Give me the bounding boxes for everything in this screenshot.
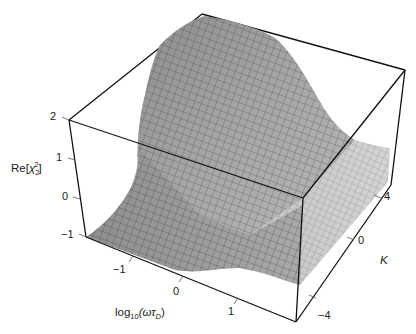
z-tick-label: 0: [62, 191, 68, 202]
z-axis-title: Re[χ22]: [11, 163, 42, 175]
y-tick-label: 4: [384, 191, 390, 202]
z-title-suffix: ]: [39, 162, 42, 174]
x-tick-label: 1: [228, 306, 234, 317]
x-title-sub: 10: [130, 312, 138, 321]
x-tick-label: −1: [113, 264, 126, 275]
z-tick-label: 1: [56, 152, 62, 163]
x-tick-label: 0: [173, 286, 179, 297]
y-tick-label: −4: [318, 310, 331, 321]
x-title-omega-tau: (ωτ: [139, 306, 156, 318]
x-title-close: ): [161, 306, 165, 318]
x-title-log: log: [115, 306, 130, 318]
y-axis-title: K: [380, 255, 388, 267]
z-axis-ticks: [62, 117, 86, 237]
surface-plot: [0, 0, 416, 334]
z-tick-label: −1: [61, 229, 74, 240]
z-tick-label: 2: [50, 111, 56, 122]
x-axis-title: log10(ωτD): [115, 307, 165, 319]
z-title-prefix: Re[: [11, 162, 29, 174]
y-tick-label: 0: [358, 235, 364, 246]
